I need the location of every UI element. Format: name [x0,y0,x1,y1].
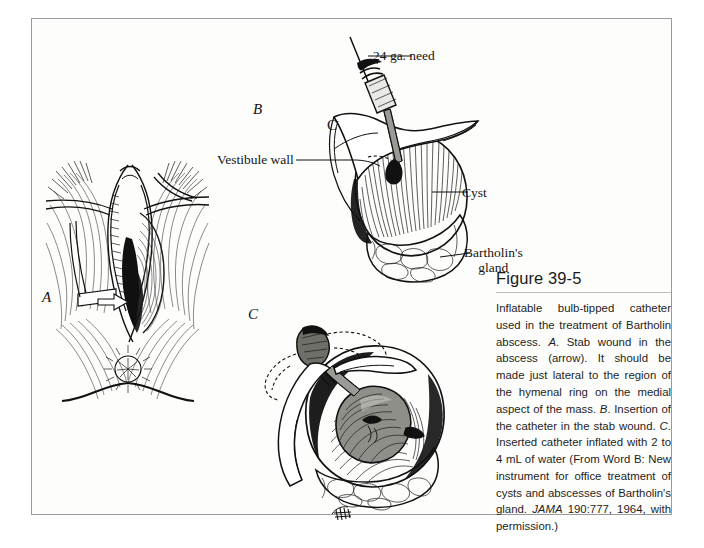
panel-letter-c: C [248,307,258,322]
caption-run: JAMA [532,503,562,515]
label-cyst: Cyst [462,185,487,200]
caption-text: Inflatable bulb-tipped catheter used in … [496,300,671,535]
label-catheter-marker: C [327,117,337,134]
panel-c-illustration [250,302,470,524]
caption-run: C [660,420,668,432]
panel-b-illustration [272,29,487,289]
label-needle: 24 ga. need [373,48,435,63]
figure-caption: Figure 39-5 Inflatable bulb-tipped cathe… [496,269,671,535]
label-vestibule-wall: Vestibule wall [217,152,294,167]
caption-run: A [548,336,556,348]
caption-run: . Inserted catheter inflated with 2 to 4… [496,420,671,516]
label-bartholins-gland-line1: Bartholin's [464,245,523,260]
caption-divider [496,292,671,293]
figure-page: A [31,18,672,515]
panel-letter-a: A [42,290,51,305]
panel-letter-b: B [253,102,262,117]
panel-a-illustration [40,139,215,404]
figure-title: Figure 39-5 [496,269,671,287]
